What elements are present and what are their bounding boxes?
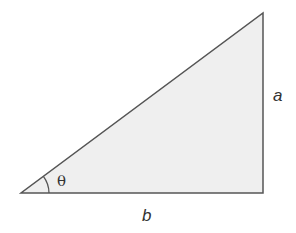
angle-label-theta: θ bbox=[57, 172, 66, 190]
triangle-shape bbox=[21, 13, 263, 193]
right-triangle-diagram: θ a b bbox=[0, 0, 296, 233]
side-label-b: b bbox=[142, 206, 151, 225]
side-label-a: a bbox=[273, 86, 282, 105]
